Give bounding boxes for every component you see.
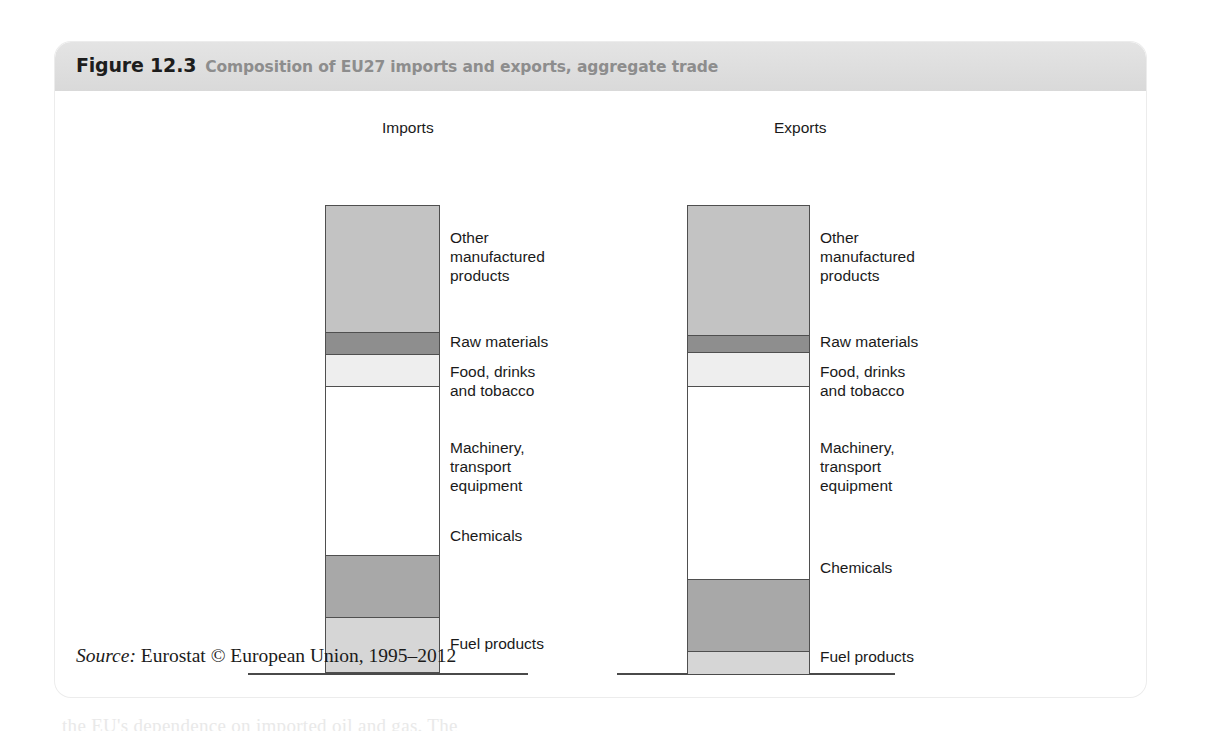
label-chemicals-imports: Chemicals: [450, 526, 522, 545]
segment-chemicals-exports: [688, 580, 809, 652]
figure-title: Composition of EU27 imports and exports,…: [205, 58, 718, 76]
figure-header-band: Figure 12.3 Composition of EU27 imports …: [55, 42, 1146, 91]
segment-other-manufactured-products-imports: [326, 206, 439, 333]
baseline-imports: [248, 673, 528, 675]
stacked-bar-imports: [325, 205, 440, 673]
segment-other-manufactured-products-exports: [688, 206, 809, 336]
panel-title-imports: Imports: [382, 119, 434, 137]
label-raw-materials-imports: Raw materials: [450, 332, 548, 351]
segment-food-drinks-and-tobacco-imports: [326, 355, 439, 387]
label-machinery-transport-equipment-exports: Machinery, transport equipment: [820, 438, 895, 495]
segment-machinery-transport-equipment-imports: [326, 387, 439, 556]
label-chemicals-exports: Chemicals: [820, 558, 892, 577]
source-text: Eurostat © European Union, 1995–2012: [136, 645, 456, 666]
segment-food-drinks-and-tobacco-exports: [688, 353, 809, 387]
label-fuel-products-imports: Fuel products: [450, 634, 544, 653]
source-prefix: Source:: [76, 645, 136, 666]
segment-chemicals-imports: [326, 556, 439, 618]
label-raw-materials-exports: Raw materials: [820, 332, 918, 351]
label-other-manufactured-products-imports: Other manufactured products: [450, 228, 545, 285]
label-machinery-transport-equipment-imports: Machinery, transport equipment: [450, 438, 525, 495]
label-food-drinks-and-tobacco-imports: Food, drinks and tobacco: [450, 362, 535, 400]
figure-container: Figure 12.3 Composition of EU27 imports …: [55, 42, 1146, 697]
segment-machinery-transport-equipment-exports: [688, 387, 809, 580]
figure-header-text: Figure 12.3 Composition of EU27 imports …: [76, 54, 718, 76]
segment-raw-materials-exports: [688, 336, 809, 353]
segment-raw-materials-imports: [326, 333, 439, 355]
chart-plot-area: Imports Other manufactured products Raw …: [55, 91, 1146, 697]
figure-number: Figure 12.3: [76, 54, 196, 76]
label-food-drinks-and-tobacco-exports: Food, drinks and tobacco: [820, 362, 905, 400]
stacked-bar-exports: [687, 205, 810, 673]
panel-exports: Exports Other manufactured products Raw …: [600, 91, 1146, 697]
segment-fuel-products-exports: [688, 652, 809, 674]
figure-source: Source: Eurostat © European Union, 1995–…: [76, 645, 456, 667]
panel-title-exports: Exports: [774, 119, 827, 137]
panel-imports: Imports Other manufactured products Raw …: [55, 91, 600, 697]
label-fuel-products-exports: Fuel products: [820, 647, 914, 666]
label-other-manufactured-products-exports: Other manufactured products: [820, 228, 915, 285]
